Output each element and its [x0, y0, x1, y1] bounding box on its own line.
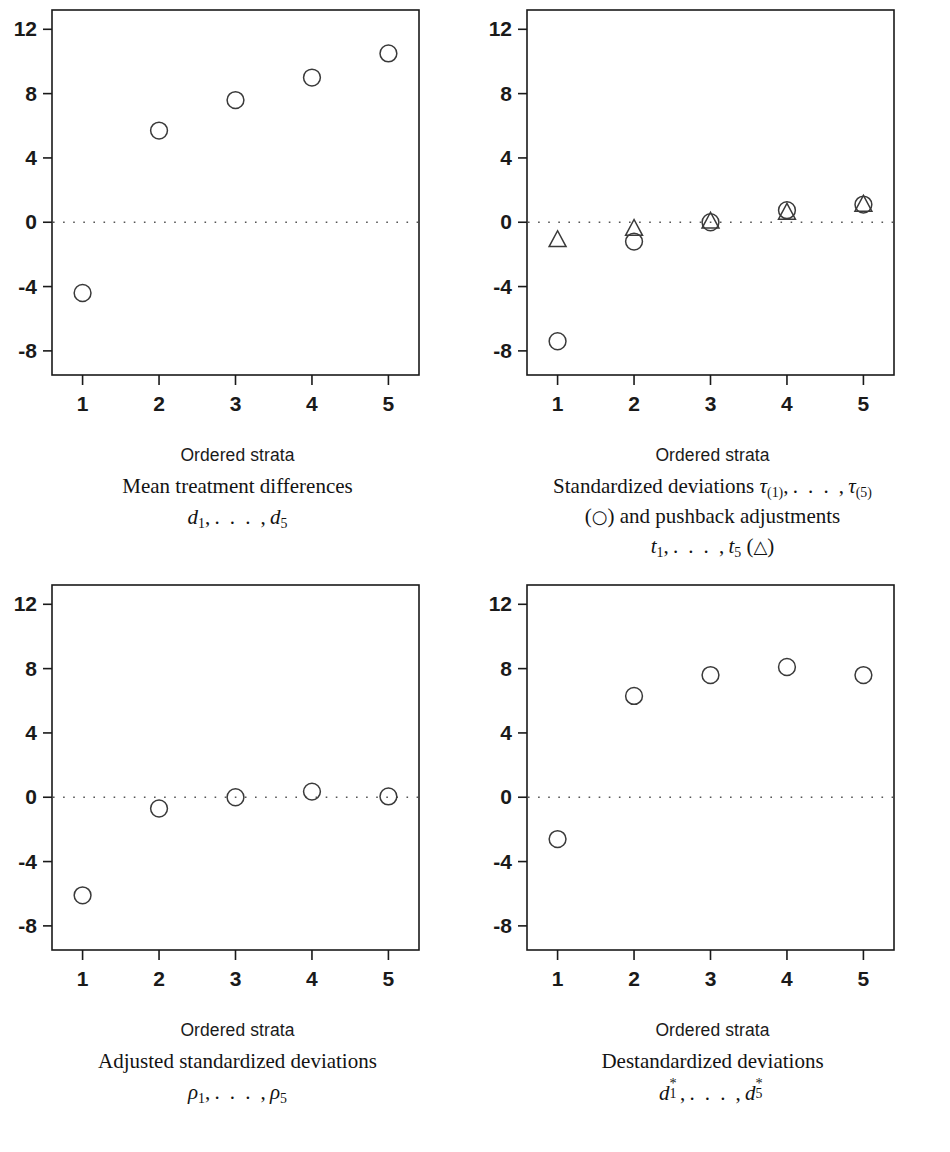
- caption-math: d1, . . . , d5: [0, 504, 475, 532]
- y-tick-label: -8: [493, 339, 512, 362]
- caption-line1-words: Standardized deviations: [553, 474, 754, 498]
- triangle-marker: [702, 212, 719, 228]
- panel-mean-treatment-differences: 12840-4-812345 Ordered strata Mean treat…: [0, 0, 475, 576]
- scatter-chart-top-left: 12840-4-812345: [0, 0, 475, 440]
- caption-bottom-right: Ordered strata Destandardized deviations…: [475, 1020, 950, 1108]
- four-panel-figure: 12840-4-812345 Ordered strata Mean treat…: [0, 0, 950, 1152]
- axes-group: 12840-4-812345: [14, 592, 395, 990]
- x-tick-label: 5: [858, 967, 870, 990]
- caption-text: Destandardized deviations: [475, 1048, 950, 1076]
- circle-marker: [549, 333, 566, 350]
- y-tick-label: 8: [25, 82, 37, 105]
- y-tick-label: -4: [493, 850, 512, 873]
- circle-marker: [227, 92, 244, 109]
- x-tick-label: 1: [77, 967, 89, 990]
- plot-frame: [52, 10, 419, 375]
- x-tick-label: 2: [153, 967, 165, 990]
- x-tick-label: 1: [552, 392, 564, 415]
- circle-marker: [779, 659, 796, 676]
- y-tick-label: 4: [500, 721, 512, 744]
- y-tick-label: -8: [493, 914, 512, 937]
- y-tick-label: 8: [500, 82, 512, 105]
- axes-group: 12840-4-812345: [489, 17, 870, 415]
- xaxis-label: Ordered strata: [0, 445, 475, 466]
- y-tick-label: 8: [500, 657, 512, 680]
- plot-frame: [527, 585, 894, 950]
- y-tick-label: 0: [500, 785, 512, 808]
- plot-frame: [527, 10, 894, 375]
- x-tick-label: 3: [705, 392, 717, 415]
- y-tick-label: 0: [25, 785, 37, 808]
- y-tick-label: 12: [14, 17, 37, 40]
- scatter-chart-bottom-right: 12840-4-812345: [475, 575, 950, 1015]
- panel-standardized-deviations: 12840-4-812345 Ordered strata Standardiz…: [475, 0, 950, 576]
- axes-group: 12840-4-812345: [489, 592, 870, 990]
- y-tick-label: 0: [500, 210, 512, 233]
- y-tick-label: 8: [25, 657, 37, 680]
- data-markers: [74, 783, 397, 904]
- circle-glyph: ○: [592, 506, 608, 527]
- circle-marker: [304, 783, 321, 800]
- caption-math: t1, . . . , t5 (△): [475, 533, 950, 561]
- x-tick-label: 4: [781, 967, 793, 990]
- x-tick-label: 4: [306, 392, 318, 415]
- xaxis-label: Ordered strata: [475, 1020, 950, 1041]
- x-tick-label: 2: [628, 392, 640, 415]
- circle-marker: [380, 788, 397, 805]
- plot-area-bottom-left: 12840-4-812345: [0, 575, 475, 1015]
- plot-area-top-right: 12840-4-812345: [475, 0, 950, 440]
- caption-math: ρ1, . . . , ρ5: [0, 1079, 475, 1107]
- circle-marker: [626, 688, 643, 705]
- scatter-chart-bottom-left: 12840-4-812345: [0, 575, 475, 1015]
- x-tick-label: 2: [153, 392, 165, 415]
- x-tick-label: 4: [781, 392, 793, 415]
- circle-marker: [151, 122, 168, 139]
- circle-marker: [74, 887, 91, 904]
- circle-marker: [855, 667, 872, 684]
- circle-marker: [304, 69, 321, 86]
- data-markers: [549, 195, 872, 349]
- panel-destandardized-deviations: 12840-4-812345 Ordered strata Destandard…: [475, 575, 950, 1151]
- x-tick-label: 4: [306, 967, 318, 990]
- circle-marker: [702, 667, 719, 684]
- xaxis-label: Ordered strata: [0, 1020, 475, 1041]
- caption-text: Mean treatment differences: [0, 473, 475, 501]
- y-tick-label: -8: [18, 914, 37, 937]
- y-tick-label: 12: [489, 17, 512, 40]
- caption-text-line2: (○) and pushback adjustments: [475, 503, 950, 531]
- axes-group: 12840-4-812345: [14, 17, 395, 415]
- caption-text-line1: Standardized deviations τ(1), . . . , τ(…: [475, 473, 950, 501]
- x-tick-label: 2: [628, 967, 640, 990]
- circle-marker: [380, 45, 397, 62]
- plot-area-top-left: 12840-4-812345: [0, 0, 475, 440]
- x-tick-label: 1: [77, 392, 89, 415]
- y-tick-label: -4: [18, 275, 37, 298]
- plot-frame: [52, 585, 419, 950]
- y-tick-label: -4: [493, 275, 512, 298]
- caption-math: d*1, . . . , d*5: [475, 1079, 950, 1108]
- y-tick-label: 4: [500, 146, 512, 169]
- y-tick-label: 4: [25, 721, 37, 744]
- triangle-glyph: △: [753, 536, 767, 557]
- xaxis-label: Ordered strata: [475, 445, 950, 466]
- plot-area-bottom-right: 12840-4-812345: [475, 575, 950, 1015]
- panel-adjusted-standardized-deviations: 12840-4-812345 Ordered strata Adjusted s…: [0, 575, 475, 1151]
- y-tick-label: 0: [25, 210, 37, 233]
- x-tick-label: 3: [705, 967, 717, 990]
- triangle-marker: [549, 231, 566, 247]
- x-tick-label: 5: [383, 967, 395, 990]
- data-markers: [549, 659, 872, 848]
- x-tick-label: 1: [552, 967, 564, 990]
- x-tick-label: 3: [230, 967, 242, 990]
- circle-marker: [74, 285, 91, 302]
- data-markers: [74, 45, 397, 301]
- x-tick-label: 3: [230, 392, 242, 415]
- caption-line2-words: and pushback adjustments: [620, 504, 840, 528]
- caption-text: Adjusted standardized deviations: [0, 1048, 475, 1076]
- circle-marker: [549, 831, 566, 848]
- y-tick-label: -8: [18, 339, 37, 362]
- caption-top-left: Ordered strata Mean treatment difference…: [0, 445, 475, 532]
- x-tick-label: 5: [858, 392, 870, 415]
- y-tick-label: 4: [25, 146, 37, 169]
- y-tick-label: -4: [18, 850, 37, 873]
